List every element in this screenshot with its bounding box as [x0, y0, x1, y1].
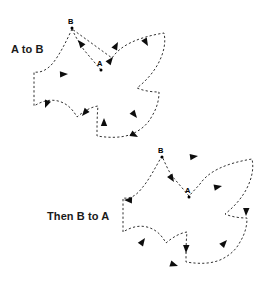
top-point-a: A — [97, 59, 103, 72]
caption-a-to-b: A to B — [11, 43, 44, 55]
arrow-head-icon — [190, 153, 199, 160]
arrow-head-icon — [183, 245, 190, 253]
point-b-dot — [161, 156, 164, 159]
point-a-dot — [100, 69, 103, 72]
arrow-head-icon — [141, 37, 151, 47]
point-b-dot — [71, 27, 74, 30]
point-a-label: A — [185, 186, 191, 195]
point-b-label: B — [68, 17, 74, 26]
top-point-b: B — [68, 17, 74, 30]
arrow-head-icon — [169, 260, 179, 269]
arrow-head-icon — [167, 174, 177, 184]
arrow-head-icon — [138, 236, 148, 246]
arrow-head-icon — [101, 118, 107, 126]
arrow-head-icon — [75, 38, 85, 48]
arrow-head-icon — [129, 130, 139, 139]
figure-canvas: A B — [0, 0, 274, 289]
diagram-top-pinwheel: A B — [34, 17, 165, 140]
top-pinwheel-outline — [34, 29, 165, 137]
arrow-head-icon — [60, 71, 68, 78]
arrow-head-icon — [42, 99, 51, 109]
caption-b-to-a: Then B to A — [47, 210, 109, 222]
top-arrowheads — [42, 37, 151, 139]
arrow-head-icon — [130, 110, 140, 120]
point-a-dot — [188, 196, 191, 199]
diagram-bottom-pinwheel: A B — [123, 146, 253, 269]
bottom-arrowheads — [124, 153, 250, 269]
arrow-head-icon — [111, 40, 120, 50]
point-b-label: B — [158, 146, 164, 155]
bottom-point-b: B — [158, 146, 164, 159]
arrow-head-icon — [219, 238, 229, 248]
arrow-head-icon — [243, 208, 250, 216]
point-a-label: A — [97, 59, 103, 68]
bottom-point-a: A — [185, 186, 191, 199]
arrow-head-icon — [214, 183, 223, 191]
